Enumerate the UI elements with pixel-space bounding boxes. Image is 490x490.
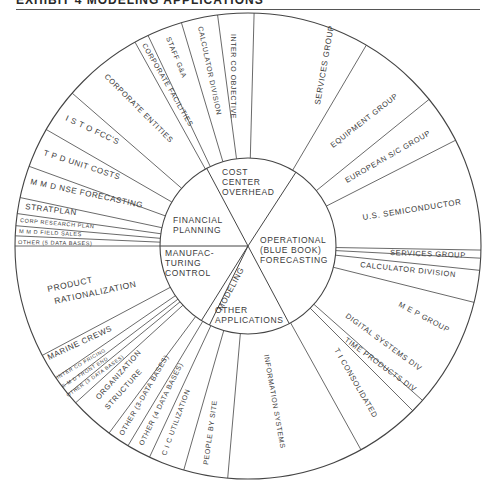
segment-divider [135,42,205,169]
application-segment-label: T P D UNIT COSTS [42,148,121,181]
segment-divider [250,13,254,158]
application-segment-label: M M D FIELD SALES [19,228,82,237]
core-category-label: FINANCIALPLANNING [173,215,223,235]
segment-divider [228,334,241,478]
application-segment-label: M E P GROUP [397,300,451,334]
segment-divider [293,45,367,170]
application-segment-label: EQUIPMENT GROUP [329,91,400,149]
segment-divider [150,326,211,457]
application-segment-label: OTHER (5 DATA BASES) [18,239,93,246]
application-segment-label: INFORMATION SYSTEMS [263,354,286,449]
segment-divider [128,321,203,445]
application-segment-label: INTER CO OBJECTIVE [230,34,237,119]
application-segment-label: I S T O FCC'S [64,114,121,147]
application-segment-label: EUROPEAN S/C GROUP [344,128,433,184]
application-segment-label: STAFF G&A [165,36,188,79]
application-segment-label: PEOPLE BY SITE [202,400,218,465]
application-segment-label: CALCULATOR DIVISION [197,26,223,116]
modeling-applications-wheel-diagram: COSTCENTEROVERHEADFINANCIALPLANNINGOPERA… [0,0,490,490]
core-category-label: OPERATIONAL(BLUE BOOK)FORECASTING [260,235,328,265]
application-segment-label: SERVICES GROUP [390,248,466,260]
application-segment-label: SERVICES GROUP [313,25,336,106]
application-segment-label: U.S. SEMICONDUCTOR [362,197,462,222]
application-segment-label: STRATPLAN [25,202,78,217]
